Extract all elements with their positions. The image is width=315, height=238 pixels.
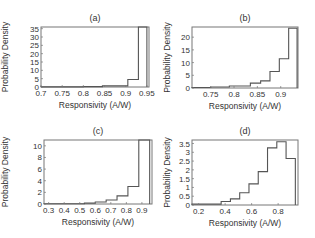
y-axis-label: Probability Density (162, 22, 172, 93)
x-tick-label: 0.8 (228, 90, 240, 99)
histogram-line (192, 142, 295, 205)
panel-title: (d) (240, 126, 251, 136)
y-tick-label: 1.5 (179, 175, 191, 184)
y-tick-label: 10 (30, 66, 39, 75)
y-tick-label: 2 (186, 166, 191, 175)
y-tick-label: 5 (35, 75, 40, 84)
x-tick-label: 0.7 (105, 206, 117, 215)
x-tick-label: 0.8 (121, 206, 133, 215)
x-tick-label: 0.2 (193, 207, 205, 216)
panel-d: (d)0.20.40.60.800.511.522.533.5Responsiv… (162, 126, 298, 228)
x-tick-label: 0.4 (220, 207, 232, 216)
plot-frame (41, 27, 149, 87)
x-tick-label: 0.3 (43, 206, 55, 215)
y-tick-label: 0 (38, 200, 43, 209)
histogram-line (41, 27, 147, 87)
histogram-figure: (a)0.70.750.80.850.90.9505101520253035Re… (0, 0, 315, 238)
y-tick-label: 2.5 (179, 157, 191, 166)
x-tick-label: 0.9 (275, 90, 287, 99)
y-tick-label: 10 (33, 142, 42, 151)
y-tick-label: 15 (30, 58, 39, 67)
histogram-line (44, 140, 150, 204)
x-axis-label: Responsivity (A/W) (209, 218, 281, 228)
x-tick-label: 0.8 (78, 89, 90, 98)
y-tick-label: 3 (186, 148, 191, 157)
x-tick-label: 0.9 (136, 206, 148, 215)
y-tick-label: 1 (186, 183, 191, 192)
x-tick-label: 0.75 (54, 89, 70, 98)
panel-a: (a)0.70.750.80.850.90.9505101520253035Re… (0, 13, 155, 110)
x-axis-label: Responsivity (A/W) (62, 217, 134, 227)
y-axis-label: Probability Density (162, 137, 172, 208)
x-tick-label: 0.9 (120, 89, 132, 98)
y-tick-label: 20 (30, 50, 39, 59)
plot-frame (192, 27, 298, 88)
panel-title: (c) (93, 126, 104, 136)
plot-frame (44, 140, 152, 204)
x-tick-label: 0.6 (246, 207, 258, 216)
plot-frame (192, 140, 298, 205)
x-tick-label: 0.6 (90, 206, 102, 215)
y-tick-label: 20 (181, 33, 190, 42)
y-tick-label: 6 (38, 165, 43, 174)
figure-canvas: (a)0.70.750.80.850.90.9505101520253035Re… (0, 0, 315, 238)
x-tick-label: 0.95 (139, 89, 155, 98)
y-tick-label: 0 (35, 83, 40, 92)
y-axis-label: Probability Density (0, 21, 10, 92)
y-tick-label: 35 (30, 25, 39, 34)
x-axis-label: Responsivity (A/W) (209, 101, 281, 111)
histogram-line (192, 28, 297, 88)
x-tick-label: 0.8 (273, 207, 285, 216)
x-tick-label: 0.4 (59, 206, 71, 215)
x-tick-label: 0.5 (74, 206, 86, 215)
y-tick-label: 0 (186, 201, 191, 210)
panel-b: (b)0.750.80.850.905101520Responsivity (A… (162, 13, 298, 111)
y-tick-label: 0.5 (179, 192, 191, 201)
y-tick-label: 2 (38, 188, 43, 197)
y-tick-label: 5 (186, 71, 191, 80)
y-tick-label: 0 (186, 84, 191, 93)
x-tick-label: 0.85 (250, 90, 266, 99)
y-tick-label: 30 (30, 33, 39, 42)
y-tick-label: 25 (30, 41, 39, 50)
panel-c: (c)0.30.40.50.60.70.80.90246810Responsiv… (0, 126, 152, 227)
y-tick-label: 15 (181, 46, 190, 55)
y-tick-label: 3.5 (179, 140, 191, 149)
y-tick-label: 10 (181, 59, 190, 68)
y-axis-label: Probability Density (0, 136, 10, 207)
x-tick-label: 0.75 (203, 90, 219, 99)
x-tick-label: 0.85 (97, 89, 113, 98)
y-tick-label: 4 (38, 177, 43, 186)
panel-title: (b) (240, 13, 251, 23)
panel-title: (a) (90, 13, 101, 23)
x-axis-label: Responsivity (A/W) (59, 100, 131, 110)
y-tick-label: 8 (38, 153, 43, 162)
